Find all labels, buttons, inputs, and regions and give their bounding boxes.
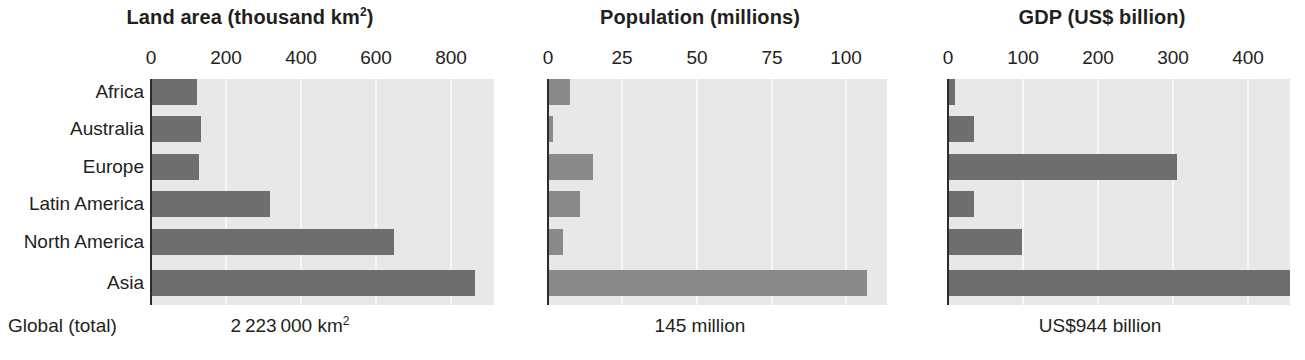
- x-tick-land-800: 800: [435, 47, 467, 69]
- total-value-gdp-text: US$944 billion: [1039, 315, 1162, 336]
- bar-land-europe: [152, 154, 199, 180]
- panel-title-land-area-superscript: 2: [360, 5, 367, 19]
- bar-land-north-america: [152, 229, 394, 255]
- three-panel-bar-chart-figure: Africa Australia Europe Latin America No…: [0, 0, 1305, 360]
- panel-title-land-area: Land area (thousand km2): [22, 6, 478, 29]
- x-tick-gdp-200: 200: [1082, 47, 1114, 69]
- total-value-land-area-text: 2 223 000 km: [231, 315, 343, 336]
- x-tick-pop-0: 0: [543, 47, 554, 69]
- panel-title-land-area-tail: ): [367, 6, 374, 28]
- x-tick-gdp-0: 0: [943, 47, 954, 69]
- bar-land-africa: [152, 79, 197, 105]
- total-value-land-area-superscript: 2: [343, 314, 350, 328]
- panel-title-gdp: GDP (US$ billion): [912, 6, 1292, 29]
- x-tick-pop-100: 100: [830, 47, 862, 69]
- bar-population-europe: [549, 154, 593, 180]
- x-tick-gdp-100: 100: [1007, 47, 1039, 69]
- bar-land-australia: [152, 116, 201, 142]
- y-axis-line-population: [547, 79, 549, 305]
- x-tick-gdp-400: 400: [1232, 47, 1264, 69]
- bar-population-africa: [549, 79, 570, 105]
- total-value-land-area: 2 223 000 km2: [80, 315, 500, 337]
- bar-population-asia: [549, 270, 867, 296]
- panel-title-population: Population (millions): [510, 6, 890, 29]
- panel-title-land-area-text: Land area (thousand km: [127, 6, 360, 28]
- y-axis-line-gdp: [947, 79, 949, 305]
- total-value-population-text: 145 million: [655, 315, 746, 336]
- bar-population-australia: [549, 116, 553, 142]
- x-axis-ticks-population: 0 25 50 75 100: [500, 47, 900, 73]
- plot-area-land-area: [150, 79, 494, 305]
- x-tick-land-600: 600: [360, 47, 392, 69]
- bar-land-asia: [152, 270, 475, 296]
- plot-area-population: [547, 79, 887, 305]
- x-tick-gdp-300: 300: [1157, 47, 1189, 69]
- y-axis-line-land: [150, 79, 152, 305]
- bar-population-latin-america: [549, 191, 580, 217]
- bar-population-north-america: [549, 229, 563, 255]
- plot-area-gdp: [947, 79, 1290, 305]
- total-value-gdp: US$944 billion: [905, 315, 1295, 337]
- panel-title-gdp-text: GDP (US$ billion): [1019, 6, 1186, 28]
- bar-gdp-latin-america: [949, 191, 974, 217]
- x-axis-ticks-land-area: 0 200 400 600 800: [0, 47, 500, 73]
- x-tick-pop-25: 25: [611, 47, 632, 69]
- bar-gdp-africa: [949, 79, 955, 105]
- bar-gdp-asia: [949, 270, 1290, 296]
- x-tick-land-400: 400: [285, 47, 317, 69]
- panel-land-area: Land area (thousand km2) 0 200 400 600 8…: [0, 0, 500, 360]
- bar-land-latin-america: [152, 191, 270, 217]
- panel-population: Population (millions) 0 25 50 75 100 145…: [500, 0, 900, 360]
- bar-gdp-australia: [949, 116, 974, 142]
- x-tick-pop-75: 75: [761, 47, 782, 69]
- bar-gdp-europe: [949, 154, 1177, 180]
- x-tick-land-200: 200: [210, 47, 242, 69]
- panel-gdp: GDP (US$ billion) 0 100 200 300 400 US$9…: [900, 0, 1305, 360]
- x-tick-pop-50: 50: [686, 47, 707, 69]
- x-axis-ticks-gdp: 0 100 200 300 400: [900, 47, 1305, 73]
- bar-gdp-north-america: [949, 229, 1022, 255]
- total-value-population: 145 million: [510, 315, 890, 337]
- panel-title-population-text: Population (millions): [600, 6, 800, 28]
- x-tick-land-0: 0: [146, 47, 157, 69]
